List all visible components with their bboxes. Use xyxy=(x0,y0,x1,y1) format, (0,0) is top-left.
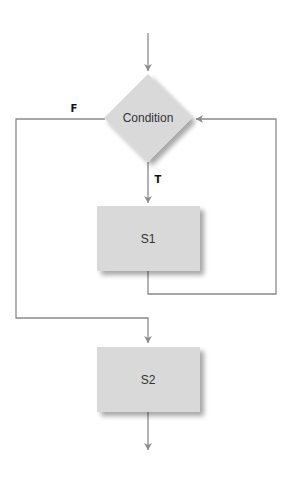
s1-node: S1 xyxy=(97,206,200,271)
flowchart-diagram: Condition S1 S2 F T xyxy=(0,0,294,483)
true-label: T xyxy=(155,174,162,185)
s2-label: S2 xyxy=(141,373,156,387)
false-label: F xyxy=(71,103,78,114)
condition-label: Condition xyxy=(123,111,174,125)
s1-label: S1 xyxy=(141,232,156,246)
s2-node: S2 xyxy=(97,347,200,412)
condition-node: Condition xyxy=(104,74,192,162)
